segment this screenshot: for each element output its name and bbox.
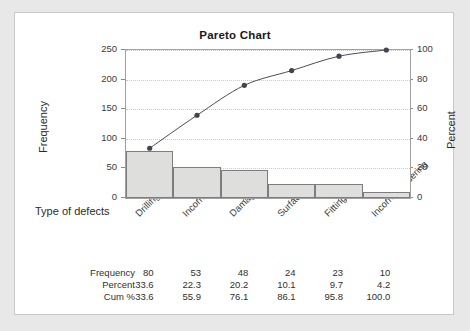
y-axis-right-tick-label: 40 [417, 133, 447, 142]
screenshot-root: Pareto Chart Frequency Percent Type of d… [0, 0, 470, 331]
y-axis-right-tick-label: 0 [417, 192, 447, 201]
table-cell: 24 [250, 267, 296, 278]
table-cell: 55.9 [155, 291, 201, 302]
table-cell: 33.6 [108, 291, 154, 302]
cumulative-marker [289, 68, 294, 73]
table-cell: 76.1 [202, 291, 248, 302]
plot-inner [126, 50, 410, 198]
y-axis-left-title: Frequency [37, 101, 49, 153]
x-axis-title: Type of defects [35, 205, 110, 217]
table-cell: 95.8 [297, 291, 343, 302]
cumulative-line-series [126, 50, 410, 198]
cumulative-marker [384, 47, 389, 52]
cumulative-marker [194, 113, 199, 118]
cumulative-line [150, 50, 387, 148]
y-axis-left-tick-label: 50 [83, 162, 117, 171]
table-cell: 22.3 [155, 279, 201, 290]
y-axis-left-tick-label: 250 [83, 44, 117, 53]
table-row: Frequency805348242310 [15, 267, 455, 279]
table-cell: 33.6 [108, 279, 154, 290]
cumulative-marker [242, 83, 247, 88]
data-table: Frequency805348242310Percent33.622.320.2… [15, 267, 455, 303]
cumulative-marker [336, 54, 341, 59]
table-cell: 80 [108, 267, 154, 278]
y-axis-left-tick-label: 150 [83, 103, 117, 112]
y-axis-left-tick-label: 100 [83, 133, 117, 142]
pareto-chart-card: Pareto Chart Frequency Percent Type of d… [14, 12, 454, 315]
table-cell: 100.0 [344, 291, 390, 302]
table-row: Cum %33.655.976.186.195.8100.0 [15, 291, 455, 303]
y-axis-right-tick-label: 100 [417, 44, 447, 53]
table-cell: 86.1 [250, 291, 296, 302]
y-axis-right-tick-label: 80 [417, 74, 447, 83]
table-cell: 20.2 [202, 279, 248, 290]
y-axis-right-tick-label: 60 [417, 103, 447, 112]
page-title: Pareto Chart [15, 29, 455, 41]
y-axis-right-title: Percent [445, 111, 457, 149]
plot-area [125, 49, 411, 199]
y-axis-left-tick-label: 200 [83, 74, 117, 83]
table-row: Percent33.622.320.210.19.74.2 [15, 279, 455, 291]
table-cell: 23 [297, 267, 343, 278]
table-cell: 4.2 [344, 279, 390, 290]
cumulative-marker [147, 146, 152, 151]
table-cell: 48 [202, 267, 248, 278]
table-cell: 10 [344, 267, 390, 278]
y-axis-left-tick-label: 0 [83, 192, 117, 201]
table-cell: 9.7 [297, 279, 343, 290]
table-cell: 53 [155, 267, 201, 278]
table-cell: 10.1 [250, 279, 296, 290]
